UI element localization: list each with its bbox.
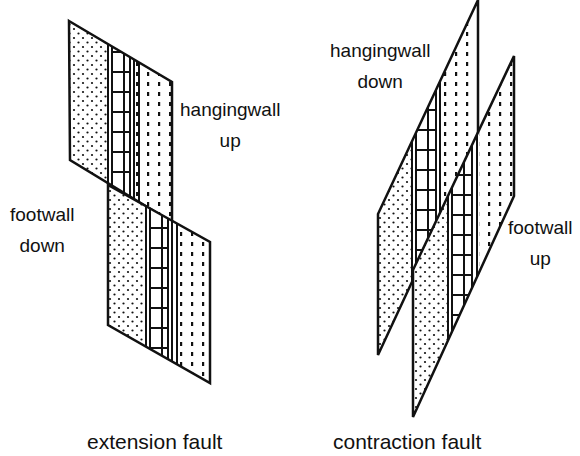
extension-footwall-block: [100, 180, 214, 390]
label-line: down: [10, 236, 74, 255]
label-line: footwall: [508, 218, 572, 237]
label-line: up: [180, 131, 280, 150]
label-line: footwall: [10, 205, 74, 224]
label-line: down: [330, 72, 430, 91]
label-line: hangingwall: [180, 100, 280, 119]
contraction-fault-caption: contraction fault: [333, 431, 481, 452]
label-line: up: [508, 249, 572, 268]
extension-hangingwall-label: hangingwall up: [180, 100, 280, 150]
fault-diagram-canvas: [0, 0, 580, 456]
extension-fault-caption: extension fault: [87, 431, 222, 452]
contraction-hangingwall-label: hangingwall down: [330, 41, 430, 91]
label-line: hangingwall: [330, 41, 430, 60]
contraction-footwall-label: footwall up: [508, 218, 572, 268]
extension-footwall-label: footwall down: [10, 205, 74, 255]
